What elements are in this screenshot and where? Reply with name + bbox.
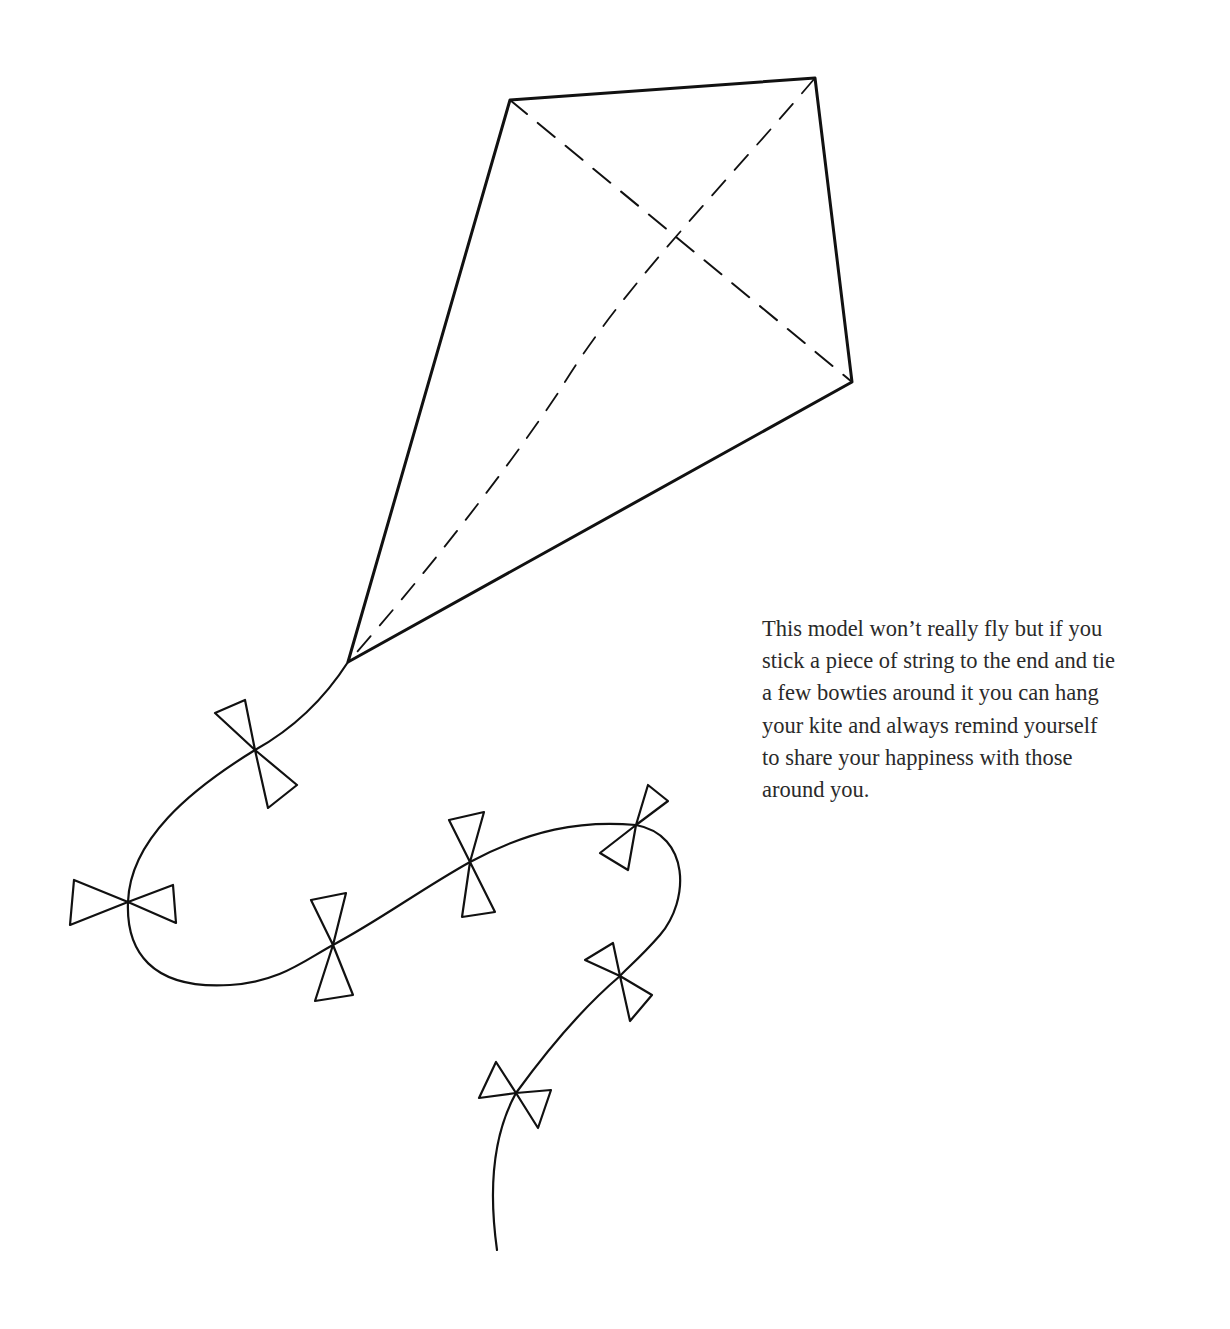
kite-frame — [348, 78, 852, 662]
kite-spar-horizontal — [510, 100, 852, 382]
caption-paragraph: This model won’t really fly but if you s… — [762, 613, 1192, 806]
caption-line: stick a piece of string to the end and t… — [762, 645, 1192, 677]
caption-line: This model won’t really fly but if you — [762, 613, 1192, 645]
page: This model won’t really fly but if you s… — [0, 0, 1230, 1329]
bowtie-3 — [311, 893, 353, 1001]
caption-line: your kite and always remind yourself — [762, 710, 1192, 742]
kite-tail-string — [128, 662, 680, 1250]
caption-line: to share your happiness with those — [762, 742, 1192, 774]
bowtie-1 — [215, 700, 297, 808]
kite-spar-vertical — [350, 78, 815, 660]
bowtie-5 — [600, 785, 668, 870]
bowtie-2 — [70, 880, 176, 925]
caption-line: around you. — [762, 774, 1192, 806]
bowtie-4 — [449, 812, 495, 917]
caption-line: a few bowties around it you can hang — [762, 677, 1192, 709]
